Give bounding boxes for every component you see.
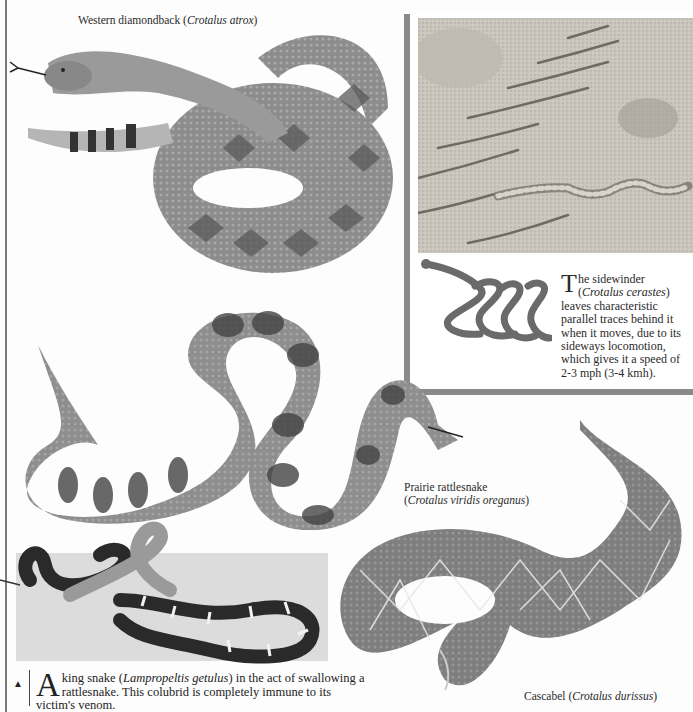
sidewinder-description: The sidewinder (Crotalus cerastes) leave… — [561, 273, 691, 380]
triangle-up-icon: ▲ — [13, 678, 23, 689]
king-snake-scientific-name: Lampropeltis getulus — [123, 671, 228, 685]
cascabel-scientific-name: Crotalus durissus — [572, 690, 653, 702]
king-snake-caption-rule — [29, 670, 30, 706]
cascabel-caption: Cascabel (Crotalus durissus) — [524, 690, 657, 703]
cascabel-illustration — [330, 410, 693, 712]
western-diamondback-illustration — [8, 18, 400, 280]
king-snake-illustration — [0, 520, 330, 670]
sidewinder-dropcap: T — [561, 274, 577, 294]
western-diamondback-caption: Western diamondback (Crotalus atrox) — [78, 14, 257, 27]
sidewinder-sand-photo — [418, 18, 693, 253]
king-snake-caption: A king snake (Lampropeltis getulus) in t… — [36, 672, 366, 712]
king-snake-dropcap: A — [36, 671, 60, 699]
sidewinder-scientific-name: Crotalus cerastes — [582, 285, 666, 299]
western-diamondback-scientific-name: Crotalus atrox — [187, 14, 254, 26]
